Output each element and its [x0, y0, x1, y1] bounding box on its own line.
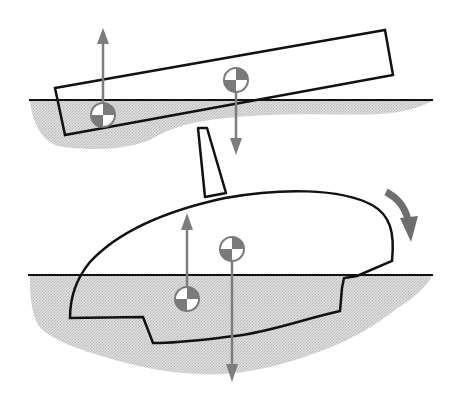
- center-of-buoyancy-icon-bottom: [175, 287, 199, 311]
- center-of-buoyancy-icon-top: [91, 103, 115, 127]
- stability-diagram: Stability diagram: tilted plank and heel…: [0, 0, 452, 394]
- mast-stub: [198, 128, 226, 197]
- water-region-top: [30, 101, 432, 149]
- hull-panel: [28, 128, 433, 382]
- plank-panel: [29, 28, 433, 155]
- center-of-gravity-icon-bottom: [220, 237, 244, 261]
- center-of-gravity-icon-top: [224, 68, 248, 92]
- gravity-force-arrow-top: [230, 84, 242, 155]
